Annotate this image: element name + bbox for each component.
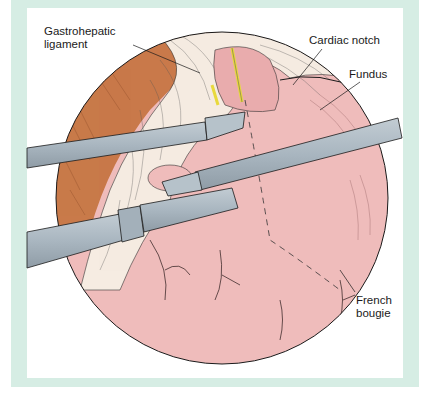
- label-fundus: Fundus: [349, 68, 387, 81]
- label-french-bougie: French bougie: [356, 294, 392, 320]
- label-line: bougie: [356, 307, 392, 320]
- label-cardiac-notch: Cardiac notch: [309, 34, 380, 47]
- label-gastrohepatic-ligament: Gastrohepatic ligament: [44, 25, 116, 51]
- label-line: Gastrohepatic: [44, 25, 116, 38]
- laparoscopic-illustration: [0, 0, 428, 398]
- label-line: French: [356, 294, 392, 307]
- label-line: ligament: [44, 38, 116, 51]
